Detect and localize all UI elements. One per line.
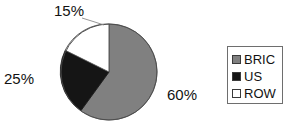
legend-label-row: ROW [244, 87, 276, 100]
legend-label-us: US [244, 70, 262, 83]
legend-swatch-bric [232, 55, 241, 64]
legend-label-bric: BRIC [244, 53, 275, 66]
row-leader-line [82, 18, 104, 25]
chart-legend: BRIC US ROW [227, 46, 283, 104]
pie-chart-figure: 15% 25% 60% BRIC US ROW [0, 0, 294, 137]
slice-label-row: 15% [54, 3, 84, 18]
legend-item-bric: BRIC [232, 51, 279, 67]
legend-item-row: ROW [232, 85, 279, 101]
legend-swatch-row [232, 89, 241, 98]
legend-item-us: US [232, 68, 279, 84]
legend-swatch-us [232, 72, 241, 81]
slice-label-bric: 60% [167, 87, 197, 102]
slice-label-us: 25% [4, 71, 34, 86]
